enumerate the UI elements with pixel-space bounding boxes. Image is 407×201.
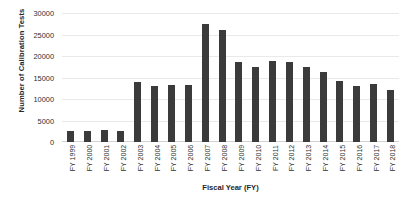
x-axis-tick-label: FY 2004 — [154, 145, 161, 171]
bar-slot — [348, 13, 365, 142]
x-axis-tick-label: FY 2001 — [103, 145, 110, 171]
x-tick-slot: FY 2012 — [281, 144, 298, 182]
x-tick-slot: FY 2011 — [264, 144, 281, 182]
bar — [151, 86, 158, 142]
x-tick-slot: FY 2009 — [230, 144, 247, 182]
bar-slot — [332, 13, 349, 142]
x-axis-tick-label: FY 2016 — [356, 145, 363, 171]
bar — [185, 85, 192, 142]
x-tick-slot: FY 2016 — [348, 144, 365, 182]
x-axis-title: Fiscal Year (FY) — [62, 183, 399, 192]
bar — [84, 131, 91, 142]
bar — [117, 131, 124, 142]
x-axis-tick-label: FY 2017 — [373, 145, 380, 171]
bar-slot — [197, 13, 214, 142]
y-axis-tick-label: 20000 — [33, 52, 54, 61]
x-axis-tick-label: FY 2000 — [86, 145, 93, 171]
x-tick-slot: FY 2018 — [382, 144, 399, 182]
x-axis-tick-label: FY 2006 — [187, 145, 194, 171]
x-tick-slot: FY 2006 — [180, 144, 197, 182]
x-axis-tick-label: FY 1999 — [69, 145, 76, 171]
bar-slot — [281, 13, 298, 142]
x-tick-slot: FY 2003 — [129, 144, 146, 182]
bar-slot — [365, 13, 382, 142]
bar — [168, 85, 175, 142]
x-tick-slot: FY 2010 — [247, 144, 264, 182]
bar-slot — [129, 13, 146, 142]
x-axis-tick-label: FY 2009 — [238, 145, 245, 171]
bar-slot — [247, 13, 264, 142]
x-tick-slot: FY 2002 — [113, 144, 130, 182]
bar — [303, 67, 310, 142]
x-axis-tick-label: FY 2003 — [137, 145, 144, 171]
bar — [286, 62, 293, 142]
x-tick-slot: FY 2000 — [79, 144, 96, 182]
bar-slot — [214, 13, 231, 142]
bar-slot — [264, 13, 281, 142]
bar-slot — [382, 13, 399, 142]
x-axis-tick-label: FY 2002 — [120, 145, 127, 171]
bar — [219, 30, 226, 142]
bar-slot — [62, 13, 79, 142]
x-axis-tick-label: FY 2014 — [322, 145, 329, 171]
bar-slot — [96, 13, 113, 142]
bar — [235, 62, 242, 142]
x-axis-tick-label: FY 2015 — [339, 145, 346, 171]
x-tick-slot: FY 2001 — [96, 144, 113, 182]
x-tick-slot: FY 2004 — [146, 144, 163, 182]
x-tick-slot: FY 2008 — [214, 144, 231, 182]
bar — [353, 86, 360, 142]
x-tick-slot: FY 1999 — [62, 144, 79, 182]
x-axis-tick-label: FY 2013 — [305, 145, 312, 171]
x-tick-slot: FY 2013 — [298, 144, 315, 182]
bar-chart: Number of Calibration Tests 300002500020… — [0, 0, 407, 201]
bar-slot — [146, 13, 163, 142]
bar-slot — [113, 13, 130, 142]
y-axis-tick-label: 25000 — [33, 30, 54, 39]
y-axis-tick-label: 15000 — [33, 73, 54, 82]
bar — [320, 72, 327, 142]
bar-series — [62, 13, 399, 142]
bar-slot — [163, 13, 180, 142]
x-axis-tick-label: FY 2012 — [288, 145, 295, 171]
x-axis-tick-label: FY 2010 — [255, 145, 262, 171]
y-axis-tick-labels: 300002500020000150001000050000 — [0, 13, 58, 142]
x-tick-slot: FY 2015 — [332, 144, 349, 182]
x-axis-tick-label: FY 2005 — [170, 145, 177, 171]
bar-slot — [79, 13, 96, 142]
x-axis-tick-label: FY 2018 — [389, 145, 396, 171]
bar — [269, 61, 276, 142]
bar — [67, 131, 74, 142]
bar — [387, 90, 394, 142]
x-axis-tick-label: FY 2008 — [221, 145, 228, 171]
x-axis-tick-label: FY 2011 — [272, 145, 279, 171]
x-axis-tick-labels: FY 1999FY 2000FY 2001FY 2002FY 2003FY 20… — [62, 144, 399, 182]
bar-slot — [230, 13, 247, 142]
bar — [202, 24, 209, 142]
x-axis-tick-label: FY 2007 — [204, 145, 211, 171]
bar-slot — [180, 13, 197, 142]
bar — [134, 82, 141, 142]
bar — [370, 84, 377, 142]
y-axis-tick-label: 30000 — [33, 9, 54, 18]
x-tick-slot: FY 2007 — [197, 144, 214, 182]
y-axis-tick-label: 0 — [50, 138, 54, 147]
bar-slot — [315, 13, 332, 142]
x-tick-slot: FY 2014 — [315, 144, 332, 182]
x-tick-slot: FY 2005 — [163, 144, 180, 182]
plot-area — [62, 13, 399, 142]
bar — [101, 130, 108, 142]
y-axis-tick-label: 10000 — [33, 95, 54, 104]
bar — [336, 81, 343, 142]
bar-slot — [298, 13, 315, 142]
y-axis-tick-label: 5000 — [38, 116, 54, 125]
x-tick-slot: FY 2017 — [365, 144, 382, 182]
bar — [252, 67, 259, 142]
